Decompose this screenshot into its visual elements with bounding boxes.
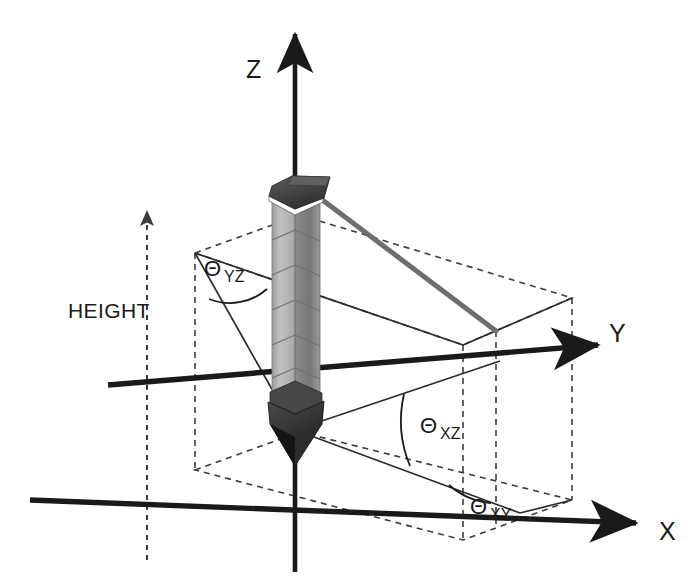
theta-xy-symbol: Θ xyxy=(470,494,487,519)
angle-arcs xyxy=(209,289,491,503)
diagram-labels: Z Y X Θ YZ Θ XZ Θ XY HEIGHT xyxy=(68,55,676,545)
diagram-canvas: Z Y X Θ YZ Θ XZ Θ XY HEIGHT xyxy=(0,0,694,582)
theta-yz-symbol: Θ xyxy=(204,256,221,281)
y-axis-label: Y xyxy=(609,319,626,347)
projection-top-left-front xyxy=(195,253,463,345)
theta-xz-subscript: XZ xyxy=(440,425,461,442)
tower-structure xyxy=(268,176,330,466)
theta-xy-subscript: XY xyxy=(490,506,512,523)
theta-yz-subscript: YZ xyxy=(224,268,245,285)
top-reference-plane xyxy=(195,215,572,345)
box-vertical-edges xyxy=(195,215,572,540)
bottom-plane-outline xyxy=(195,432,572,540)
tether-line xyxy=(300,183,496,331)
top-plane-outline xyxy=(195,215,572,345)
theta-xz-arc xyxy=(401,394,410,466)
x-axis-line xyxy=(30,500,636,523)
x-axis-label: X xyxy=(659,517,676,545)
y-axis-line xyxy=(108,345,598,385)
theta-yz-arc xyxy=(209,289,267,303)
z-axis-label: Z xyxy=(246,55,261,83)
coordinate-system-diagram: Z Y X Θ YZ Θ XZ Θ XY HEIGHT xyxy=(0,0,694,582)
projection-xy-tail xyxy=(520,500,572,513)
projection-xz xyxy=(295,361,500,430)
tower-cap-top xyxy=(288,176,330,186)
tether-cable xyxy=(300,183,496,331)
height-text-label: HEIGHT xyxy=(68,299,150,322)
theta-xz-symbol: Θ xyxy=(420,413,437,438)
projection-lines xyxy=(195,253,572,513)
bottom-reference-plane xyxy=(195,432,572,540)
